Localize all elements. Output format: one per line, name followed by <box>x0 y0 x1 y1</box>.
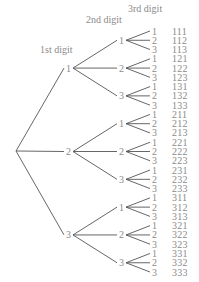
edge-32-to-321 <box>126 226 150 235</box>
edge-1-to-13 <box>73 68 117 96</box>
edge-3-to-33 <box>73 235 117 263</box>
tree-edges <box>16 31 150 272</box>
node-2nd-33: 3 <box>119 257 124 268</box>
header-1st-digit: 1st digit <box>40 44 73 55</box>
edge-23-to-233 <box>126 179 150 188</box>
node-2nd-21: 1 <box>119 118 124 129</box>
edge-31-to-313 <box>126 207 150 216</box>
header-3rd-digit: 3rd digit <box>128 3 162 14</box>
edge-32-to-323 <box>126 235 150 244</box>
edge-12-to-123 <box>126 68 150 77</box>
edge-12-to-121 <box>126 59 150 68</box>
edge-1-to-11 <box>73 40 117 68</box>
node-1st-2: 2 <box>66 146 71 157</box>
edge-22-to-223 <box>126 152 150 161</box>
node-2nd-12: 2 <box>119 63 124 74</box>
edge-13-to-131 <box>126 87 150 96</box>
edge-2-to-21 <box>73 124 117 152</box>
edge-22-to-221 <box>126 142 150 151</box>
edge-11-to-111 <box>126 31 150 40</box>
node-3rd-333: 3 <box>152 267 157 278</box>
node-2nd-13: 3 <box>119 90 124 101</box>
node-2nd-11: 1 <box>119 35 124 46</box>
node-2nd-22: 2 <box>119 146 124 157</box>
edge-2-to-23 <box>73 152 117 180</box>
edge-23-to-231 <box>126 170 150 179</box>
node-1st-1: 1 <box>66 63 71 74</box>
node-2nd-32: 2 <box>119 229 124 240</box>
tree-diagram: 1st digit 2nd digit 3rd digit 1111112112… <box>0 0 199 282</box>
edge-33-to-331 <box>126 253 150 262</box>
edge-root-to-2 <box>16 151 64 152</box>
header-2nd-digit: 2nd digit <box>86 14 122 25</box>
outcome-333: 333 <box>172 267 188 278</box>
edge-21-to-213 <box>126 124 150 133</box>
node-2nd-23: 3 <box>119 174 124 185</box>
edge-3-to-31 <box>73 207 117 235</box>
edge-31-to-311 <box>126 198 150 207</box>
node-1st-3: 3 <box>66 229 71 240</box>
edge-13-to-133 <box>126 96 150 105</box>
edge-root-to-3 <box>16 151 64 235</box>
edge-21-to-211 <box>126 114 150 123</box>
edge-33-to-333 <box>126 263 150 272</box>
edge-root-to-1 <box>16 68 64 151</box>
edge-11-to-113 <box>126 40 150 49</box>
node-2nd-31: 1 <box>119 202 124 213</box>
